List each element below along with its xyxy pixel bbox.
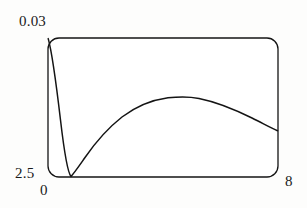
x-axis-min-label: 0 [40, 183, 48, 198]
figure-container: 0.03 2.5 0 8 [0, 0, 307, 208]
x-axis-max-label: 8 [285, 174, 293, 189]
y-axis-max-label: 0.03 [19, 14, 46, 29]
y-axis-min-label: 2.5 [15, 166, 34, 181]
plot-canvas [0, 0, 307, 208]
plot-frame [48, 38, 278, 177]
